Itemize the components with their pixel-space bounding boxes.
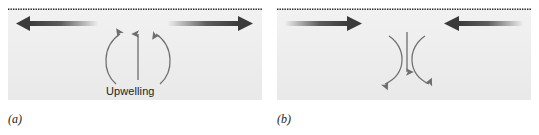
surface-arrow-left — [285, 16, 362, 31]
circulation-curve-left — [385, 36, 402, 84]
surface-arrow-left — [16, 16, 98, 31]
panel-caption-b: (b) — [277, 112, 291, 127]
circulation-curve-right — [412, 36, 429, 84]
circulation-curve-left — [106, 34, 120, 84]
upwelling-downwelling-figure: Upwelling — [0, 0, 539, 135]
panel-upwelling: Upwelling — [8, 8, 262, 100]
panel-downwelling-graphics — [277, 8, 531, 100]
upwelling-label: Upwelling — [106, 85, 155, 97]
circulation-curve-right — [156, 34, 170, 84]
panel-downwelling: Downwelling — [277, 8, 531, 100]
surface-arrow-right — [168, 16, 253, 31]
panel-caption-a: (a) — [8, 112, 22, 127]
surface-arrow-right — [444, 16, 523, 31]
